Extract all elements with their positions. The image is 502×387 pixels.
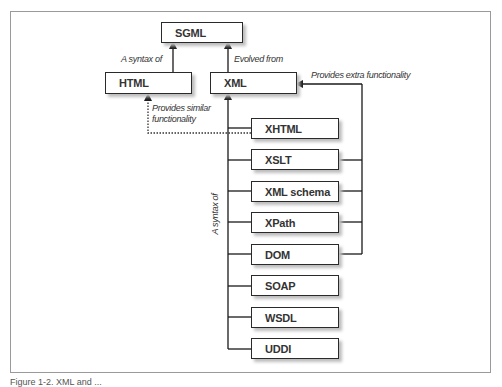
node-label: HTML — [119, 77, 149, 89]
node-xslt: XSLT — [251, 149, 339, 170]
node-wsdl: WSDL — [251, 307, 339, 328]
node-soap: SOAP — [251, 275, 339, 296]
node-label: XML — [224, 77, 247, 89]
node-sgml: SGML — [161, 22, 243, 43]
node-dom: DOM — [251, 244, 339, 265]
node-label: XSLT — [265, 154, 292, 166]
node-label: XPath — [265, 217, 295, 229]
node-label: SOAP — [265, 280, 295, 292]
edge-label-similar-functionality-1: Provides similar — [152, 103, 211, 113]
node-label: SGML — [175, 27, 206, 39]
node-html: HTML — [105, 72, 192, 94]
node-xhtml: XHTML — [251, 118, 339, 139]
node-xpath: XPath — [251, 212, 339, 233]
figure-caption: Figure 1-2. XML and ... — [10, 377, 102, 387]
node-xml-schema: XML schema — [251, 181, 339, 202]
node-label: WSDL — [265, 312, 297, 324]
node-uddi: UDDI — [251, 338, 339, 359]
node-xml: XML — [210, 72, 297, 94]
edge-label-children-xml: A syntax of — [210, 194, 220, 235]
node-label: XHTML — [265, 123, 302, 135]
edge-label-xml-sgml: Evolved from — [234, 54, 283, 64]
node-label: DOM — [265, 249, 290, 261]
edge-label-extra-functionality: Provides extra functionality — [311, 70, 410, 80]
node-label: UDDI — [265, 343, 291, 355]
node-label: XML schema — [265, 186, 330, 198]
edge-label-similar-functionality-2: functionality — [152, 114, 196, 124]
edge-label-html-sgml: A syntax of — [121, 54, 162, 64]
